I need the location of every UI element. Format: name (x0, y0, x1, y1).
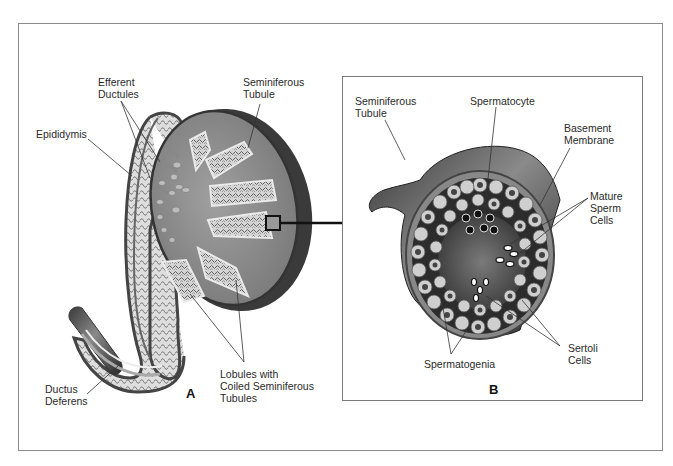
magnification-box (266, 216, 280, 230)
label-line: Membrane (564, 134, 614, 146)
label-ductus-deferens: Ductus Deferens (45, 383, 88, 407)
label-line: Mature (590, 190, 623, 202)
label-line: Cells (590, 214, 623, 226)
label-line: Ductules (98, 88, 139, 100)
panel-a-letter: A (186, 386, 195, 401)
label-spermatogenia: Spermatogenia (424, 358, 495, 370)
label-line: Seminiferous (355, 95, 416, 107)
anatomy-illustration (0, 0, 673, 466)
label-spermatocyte: Spermatocyte (470, 95, 535, 107)
label-line: Cells (568, 354, 598, 366)
label-basement-membrane: Basement Membrane (564, 122, 614, 146)
panel-a-artwork (69, 94, 342, 392)
label-line: Spermatogenia (424, 358, 495, 370)
label-line: Lobules with (220, 368, 314, 380)
label-line: Tubule (355, 107, 416, 119)
label-line: Tubule (243, 88, 304, 100)
label-efferent-ductules: Efferent Ductules (98, 76, 139, 100)
label-line: Spermatocyte (470, 95, 535, 107)
label-lobules: Lobules with Coiled Seminiferous Tubules (220, 368, 314, 404)
label-line: Basement (564, 122, 614, 134)
label-line: Tubules (220, 392, 314, 404)
label-line: Coiled Seminiferous (220, 380, 314, 392)
label-line: Ductus (45, 383, 88, 395)
label-sertoli-cells: Sertoli Cells (568, 342, 598, 366)
label-line: Efferent (98, 76, 139, 88)
label-line: Deferens (45, 395, 88, 407)
label-seminiferous-tubule-b: Seminiferous Tubule (355, 95, 416, 119)
label-epididymis: Epididymis (36, 128, 87, 140)
panel-b-letter: B (489, 382, 498, 397)
label-line: Sertoli (568, 342, 598, 354)
label-line: Epididymis (36, 128, 87, 140)
label-line: Sperm (590, 202, 623, 214)
panel-b-artwork (369, 146, 560, 339)
label-seminiferous-tubule-a: Seminiferous Tubule (243, 76, 304, 100)
label-mature-sperm-cells: Mature Sperm Cells (590, 190, 623, 226)
label-line: Seminiferous (243, 76, 304, 88)
